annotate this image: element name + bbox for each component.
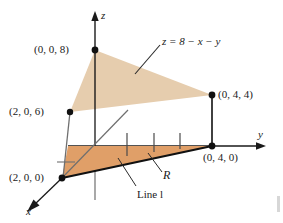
z-axis-label: z bbox=[101, 10, 105, 21]
z-axis-arrowhead bbox=[91, 11, 98, 21]
point-dot-2-0-0 bbox=[59, 175, 66, 182]
plane-triangle bbox=[70, 50, 212, 112]
figure-container: (0, 0, 8) (2, 0, 6) (0, 4, 4) (2, 0, 0) … bbox=[0, 0, 283, 223]
point-label-2-0-6: (2, 0, 6) bbox=[9, 106, 44, 117]
point-label-0-4-0: (0, 4, 0) bbox=[203, 152, 238, 163]
line-l-label: Line l bbox=[137, 189, 163, 200]
point-dot-0-4-0 bbox=[209, 143, 216, 150]
plane-equation-label: z = 8 − x − y bbox=[162, 36, 220, 47]
point-label-0-4-4: (0, 4, 4) bbox=[218, 89, 253, 100]
point-label-2-0-0: (2, 0, 0) bbox=[9, 172, 44, 183]
point-dot-0-0-8 bbox=[92, 47, 99, 54]
y-axis-arrowhead bbox=[256, 142, 266, 149]
x-axis-label: x bbox=[26, 206, 31, 217]
y-axis-label: y bbox=[258, 129, 263, 140]
scan-edge-artifact bbox=[277, 196, 280, 212]
point-dot-0-4-4 bbox=[209, 92, 216, 99]
point-label-0-0-8: (0, 0, 8) bbox=[34, 44, 69, 55]
point-dot-2-0-6 bbox=[67, 109, 73, 115]
region-label: R bbox=[163, 169, 170, 181]
equation-leader-line bbox=[135, 45, 160, 74]
